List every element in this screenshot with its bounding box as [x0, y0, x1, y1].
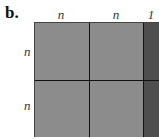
horizontal-divider	[35, 80, 159, 81]
panel-label: b.	[5, 3, 19, 23]
block-bottom-left	[35, 81, 89, 137]
block-bottom-right	[90, 81, 144, 137]
block-top-right	[90, 23, 144, 80]
row-label-2: n	[24, 98, 31, 114]
block-top-left	[35, 23, 89, 80]
column-label-2: n	[113, 7, 120, 23]
column-label-1: n	[58, 7, 65, 23]
block-matrix	[34, 22, 159, 137]
row-label-1: n	[24, 44, 31, 60]
column-label-3: 1	[148, 7, 155, 23]
